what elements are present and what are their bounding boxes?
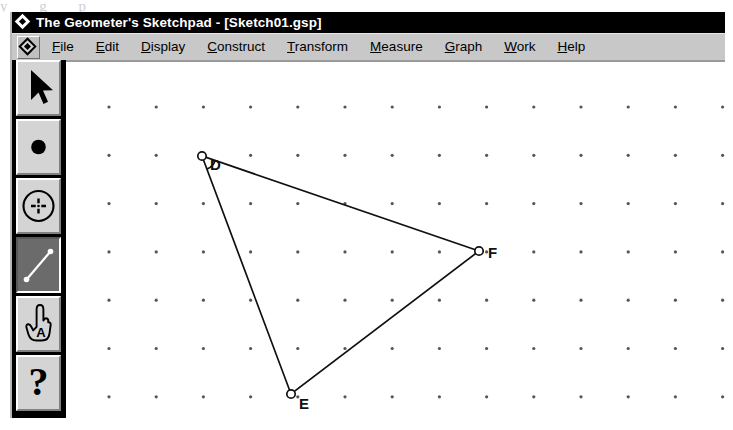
grid-dot: [249, 347, 252, 350]
grid-dot: [107, 347, 110, 350]
grid-dot: [627, 250, 630, 253]
vertex-point-e[interactable]: [287, 390, 295, 398]
dot-grid: [107, 105, 724, 398]
window-title: The Geometer's Sketchpad - [Sketch01.gsp…: [36, 15, 322, 30]
menu-item-construct[interactable]: Construct: [207, 38, 265, 56]
vertex-point-d[interactable]: [198, 152, 206, 160]
grid-dot: [391, 105, 394, 108]
sketch-drawing[interactable]: DEF: [66, 60, 725, 416]
title-bar: The Geometer's Sketchpad - [Sketch01.gsp…: [12, 12, 725, 33]
grid-dot: [107, 154, 110, 157]
grid-dot: [391, 347, 394, 350]
grid-dot: [438, 105, 441, 108]
grid-dot: [532, 105, 535, 108]
app-menu-button[interactable]: [17, 36, 40, 59]
point-tool[interactable]: [16, 119, 61, 175]
grid-dot: [296, 154, 299, 157]
grid-dot: [674, 250, 677, 253]
grid-dot: [721, 250, 724, 253]
grid-dot: [721, 347, 724, 350]
grid-dot: [391, 154, 394, 157]
grid-dot: [627, 202, 630, 205]
grid-dot: [485, 105, 488, 108]
grid-dot: [438, 250, 441, 253]
grid-dot: [343, 250, 346, 253]
menu-item-help[interactable]: Help: [557, 38, 585, 56]
grid-dot: [155, 347, 158, 350]
grid-dot: [343, 299, 346, 302]
grid-dot: [674, 395, 677, 398]
hand-pointing-a-icon: A: [18, 298, 59, 350]
grid-dot: [296, 202, 299, 205]
triangle-figure[interactable]: DEF: [198, 152, 497, 412]
circle-crosshair-icon: [18, 180, 59, 232]
grid-dot: [155, 395, 158, 398]
vertex-point-f[interactable]: [475, 247, 483, 255]
grid-dot: [343, 395, 346, 398]
grid-dot: [485, 154, 488, 157]
grid-dot: [296, 347, 299, 350]
svg-text:A: A: [36, 325, 46, 340]
grid-dot: [391, 250, 394, 253]
grid-dot: [343, 347, 346, 350]
grid-dot: [674, 105, 677, 108]
grid-dot: [107, 395, 110, 398]
grid-dot: [343, 154, 346, 157]
sketch-canvas[interactable]: DEF: [64, 60, 725, 418]
menu-bar: File Edit Display Construct Transform Me…: [12, 33, 725, 60]
grid-dot: [627, 105, 630, 108]
application-window: The Geometer's Sketchpad - [Sketch01.gsp…: [10, 12, 723, 418]
vertex-label-e[interactable]: E: [299, 395, 309, 412]
grid-dot: [627, 347, 630, 350]
grid-dot: [202, 347, 205, 350]
grid-dot: [627, 395, 630, 398]
text-tool[interactable]: A: [16, 296, 61, 352]
grid-dot: [296, 250, 299, 253]
selection-arrow-tool[interactable]: [16, 60, 61, 116]
menu-item-measure[interactable]: Measure: [370, 38, 423, 56]
vertex-label-d[interactable]: D: [210, 156, 221, 173]
grid-dot: [579, 202, 582, 205]
triangle-outline[interactable]: [202, 156, 479, 394]
grid-dot: [532, 299, 535, 302]
grid-dot: [532, 395, 535, 398]
straightedge-segment-tool[interactable]: [16, 237, 61, 293]
grid-dot: [532, 347, 535, 350]
grid-dot: [485, 395, 488, 398]
grid-dot: [391, 395, 394, 398]
information-tool[interactable]: ?: [16, 355, 61, 411]
grid-dot: [438, 202, 441, 205]
grid-dot: [579, 299, 582, 302]
grid-dot: [438, 154, 441, 157]
grid-dot: [485, 347, 488, 350]
grid-dot: [155, 299, 158, 302]
grid-dot: [627, 299, 630, 302]
compass-circle-tool[interactable]: [16, 178, 61, 234]
menu-item-display[interactable]: Display: [141, 38, 185, 56]
grid-dot: [532, 250, 535, 253]
menu-item-graph[interactable]: Graph: [445, 38, 483, 56]
grid-dot: [296, 299, 299, 302]
grid-dot: [674, 299, 677, 302]
grid-dot: [721, 299, 724, 302]
menu-item-edit[interactable]: Edit: [96, 38, 119, 56]
filled-dot-icon: [18, 121, 59, 173]
grid-dot: [202, 202, 205, 205]
grid-dot: [107, 105, 110, 108]
scan-bleed-text: y g p: [0, 0, 733, 12]
menu-item-transform[interactable]: Transform: [287, 38, 348, 56]
grid-dot: [579, 347, 582, 350]
grid-dot: [579, 250, 582, 253]
menu-item-file[interactable]: File: [52, 38, 74, 56]
grid-dot: [579, 154, 582, 157]
grid-dot: [249, 105, 252, 108]
grid-dot: [202, 395, 205, 398]
grid-dot: [721, 202, 724, 205]
grid-dot: [155, 105, 158, 108]
menu-item-work[interactable]: Work: [504, 38, 535, 56]
diamond-icon: [16, 15, 31, 30]
grid-dot: [721, 154, 724, 157]
grid-dot: [485, 202, 488, 205]
vertex-label-f[interactable]: F: [488, 244, 497, 261]
grid-dot: [249, 299, 252, 302]
